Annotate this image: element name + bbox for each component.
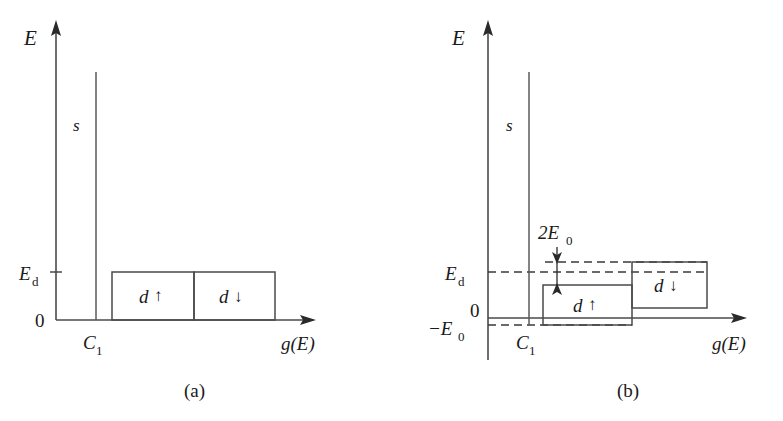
panel-b-neg-e0-label-main: −E (428, 318, 453, 339)
panel-a-spin-up-icon: ↑ (154, 286, 163, 305)
panel-b-ed-label: E d (444, 263, 465, 289)
panel-b-exchange-splitting-annotation: 2E 0 (538, 222, 573, 295)
panel-b-d-down-label: d ↓ (654, 275, 678, 296)
panel-b-spin-up-icon: ↑ (588, 295, 597, 314)
panel-a-d-up-letter: d (139, 286, 149, 307)
panel-a-d-down-letter: d (219, 286, 229, 307)
panel-a-zero-label: 0 (35, 310, 45, 331)
panel-b-diagram: E E d 0 −E 0 s C 1 2E (392, 0, 783, 421)
panel-a-y-axis (51, 20, 61, 320)
panel-a-s-band-label: s (73, 116, 80, 135)
panel-b-2e0-label-sub: 0 (566, 233, 573, 248)
panel-a-ed-label-sub: d (32, 274, 39, 289)
panel-b-y-axis-label: E (451, 26, 465, 50)
panel-a-diagram: E E d 0 s C 1 d ↑ d ↓ g(E) (0, 0, 392, 421)
panel-a-d-up-box (112, 272, 194, 320)
panel-a-caption: (a) (184, 380, 205, 402)
panel-b-x-axis (488, 313, 747, 323)
figure-root: E E d 0 s C 1 d ↑ d ↓ g(E) (0, 0, 783, 421)
panel-b-c1-label-sub: 1 (529, 343, 536, 358)
panel-b-x-axis-label: g(E) (712, 333, 746, 355)
panel-b-c1-label: C 1 (516, 332, 536, 358)
panel-b-spin-down-icon: ↓ (669, 276, 678, 295)
panel-b-d-up-label: d ↑ (573, 295, 597, 316)
panel-a-c1-label-main: C (83, 332, 96, 353)
panel-a-y-axis-label: E (23, 26, 37, 50)
panel-b-2e0-label-main: 2E (538, 222, 560, 243)
panel-a-ed-label-main: E (18, 263, 31, 284)
panel-b-ed-label-sub: d (458, 274, 465, 289)
panel-b-zero-label: 0 (470, 300, 480, 321)
panel-a-d-up-label: d ↑ (139, 286, 163, 307)
panel-b-d-down-letter: d (654, 275, 664, 296)
panel-b-s-band-label: s (506, 116, 513, 135)
panel-b-caption: (b) (617, 380, 639, 402)
panel-a-spin-down-icon: ↓ (234, 287, 243, 306)
panel-a-d-down-label: d ↓ (219, 286, 243, 307)
panel-b-d-up-letter: d (573, 295, 583, 316)
panel-a-x-axis-label: g(E) (281, 333, 315, 355)
panel-a-ed-label: E d (18, 263, 39, 289)
panel-a-c1-label: C 1 (83, 332, 103, 358)
panel-b-ed-label-main: E (444, 263, 457, 284)
panel-b-c1-label-main: C (516, 332, 529, 353)
panel-b-neg-e0-label-sub: 0 (458, 329, 465, 344)
panel-b-neg-e0-label: −E 0 (428, 318, 465, 344)
panel-a-c1-label-sub: 1 (96, 343, 103, 358)
panel-b-y-axis (483, 20, 493, 360)
